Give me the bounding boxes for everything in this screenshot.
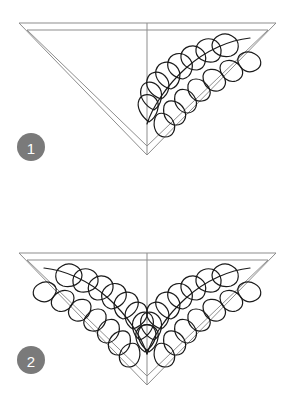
petal-inner-5	[69, 299, 91, 321]
petal-outer-6	[181, 46, 206, 70]
pattern-page: 1	[0, 0, 295, 401]
petal-outer-7	[73, 269, 98, 292]
petal-inner-2	[164, 101, 186, 125]
step-1-illustration: 1	[0, 0, 295, 200]
petal-inner-2	[164, 331, 186, 355]
petal-outer-6	[181, 276, 206, 300]
step-2-illustration: 2	[0, 200, 295, 401]
step-2-feather-plume-left	[33, 264, 156, 367]
step-badge-number: 2	[27, 353, 35, 370]
petal-inner-5	[203, 299, 225, 321]
petal-outer-8	[212, 264, 238, 286]
petal-outer-8	[212, 34, 238, 56]
step-1-figure: 1	[0, 0, 295, 200]
petal-inner-5	[203, 69, 225, 91]
step-2-badge: 2	[17, 346, 45, 374]
step-2-figure: 2	[0, 200, 295, 401]
petal-outer-7	[196, 39, 221, 62]
petal-inner-2	[108, 331, 130, 355]
petal-outer-2	[141, 82, 162, 110]
petal-inner-4	[188, 309, 210, 331]
petal-inner-4	[188, 79, 210, 101]
petal-outer-6	[88, 276, 113, 300]
step-1-badge: 1	[17, 133, 45, 161]
step-1-feather-plume-right	[138, 34, 261, 137]
step-2-feather-plume-right	[138, 264, 261, 367]
petal-outer-8	[56, 264, 82, 286]
petal-inner-4	[84, 309, 106, 331]
step-badge-number: 1	[27, 140, 35, 157]
petal-outer-7	[196, 269, 221, 292]
